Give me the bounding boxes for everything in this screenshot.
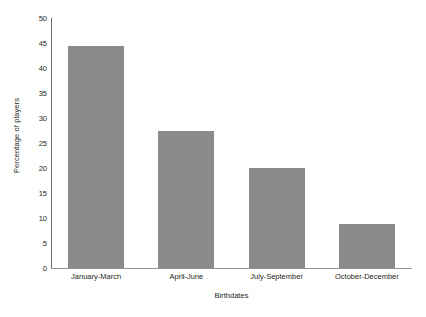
bar[interactable] — [339, 224, 395, 268]
y-axis-title-text: Percentage of players — [13, 97, 22, 172]
y-axis-title: Percentage of players — [10, 0, 24, 270]
x-tick-label: April-June — [169, 272, 203, 281]
bar[interactable] — [158, 131, 214, 268]
bar-group — [249, 18, 305, 268]
x-tick-label: January-March — [71, 272, 121, 281]
bar[interactable] — [68, 46, 124, 269]
bar-series — [51, 18, 412, 268]
bar-group — [68, 18, 124, 268]
bar-group — [158, 18, 214, 268]
bar-group — [339, 18, 395, 268]
x-axis-baseline — [51, 268, 412, 269]
x-axis-title: Birthdates — [51, 291, 412, 300]
x-tick-label: July-September — [250, 272, 303, 281]
bar-chart: Percentage of players 051015202530354045… — [0, 0, 426, 317]
x-axis-tick-labels: January-MarchApril-JuneJuly-SeptemberOct… — [51, 272, 412, 286]
bar[interactable] — [249, 168, 305, 268]
x-tick-label: October-December — [335, 272, 399, 281]
